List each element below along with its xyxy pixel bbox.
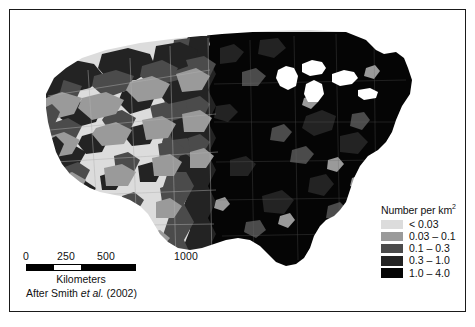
scale-tick-1000: 1000 [174,250,198,262]
legend-row: 0.3 – 1.0 [381,255,467,267]
legend-swatch-2 [381,232,403,242]
legend-row: 0.03 – 0.1 [381,231,467,243]
scale-tick-250: 250 [57,250,75,262]
legend-swatch-1 [381,220,403,230]
legend-title-text: Number per km [381,204,452,216]
legend-swatch-5 [381,268,403,278]
legend-label-5: 1.0 – 4.0 [409,268,450,279]
scale-bar-graphic [26,264,136,271]
attribution-text: After Smith et al. (2002) [26,287,186,299]
legend-label-1: < 0.03 [409,219,439,230]
figure-container: 0 250 500 1000 Kilometers After Smith et… [0,0,475,327]
legend-title: Number per km2 [381,203,467,216]
attribution-suffix: (2002) [104,287,137,299]
legend-label-3: 0.1 – 0.3 [409,243,450,254]
scale-units-label: Kilometers [26,273,136,285]
scale-segment-3 [81,265,135,270]
scale-tick-0: 0 [23,250,29,262]
scale-segment-1 [27,265,54,270]
map-legend: Number per km2 < 0.03 0.03 – 0.1 0.1 – 0… [381,203,467,279]
legend-swatch-4 [381,256,403,266]
scale-segment-2 [54,265,81,270]
scale-tick-500: 500 [97,250,115,262]
scale-tick-labels: 0 250 500 1000 [26,250,186,263]
attribution-prefix: After Smith [26,287,81,299]
legend-label-2: 0.03 – 0.1 [409,231,456,242]
attribution-etal: et al. [81,287,104,299]
legend-label-4: 0.3 – 1.0 [409,255,450,266]
legend-row: < 0.03 [381,219,467,231]
legend-swatch-3 [381,244,403,254]
legend-title-exponent: 2 [452,203,456,210]
scale-bar-block: 0 250 500 1000 Kilometers After Smith et… [26,250,186,299]
legend-row: 1.0 – 4.0 [381,267,467,279]
legend-row: 0.1 – 0.3 [381,243,467,255]
